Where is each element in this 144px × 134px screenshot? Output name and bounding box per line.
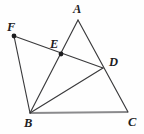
segment-a-c (78, 20, 128, 112)
point-label-e: E (50, 38, 58, 51)
point-label-a: A (73, 3, 81, 16)
segment-b-f (14, 36, 30, 113)
vertex-dot-e (59, 52, 64, 57)
figure-canvas (0, 0, 144, 134)
base-edges-group (30, 112, 128, 113)
point-label-b: B (24, 117, 32, 130)
point-label-d: D (109, 56, 118, 69)
segment-b-d (30, 68, 103, 113)
vertex-dot-f (12, 34, 17, 39)
point-label-f: F (7, 21, 15, 34)
point-label-c: C (128, 116, 136, 129)
segment-b-c (30, 112, 128, 113)
geometry-figure: ABCDEF (0, 0, 144, 134)
segment-b-a (30, 20, 78, 113)
